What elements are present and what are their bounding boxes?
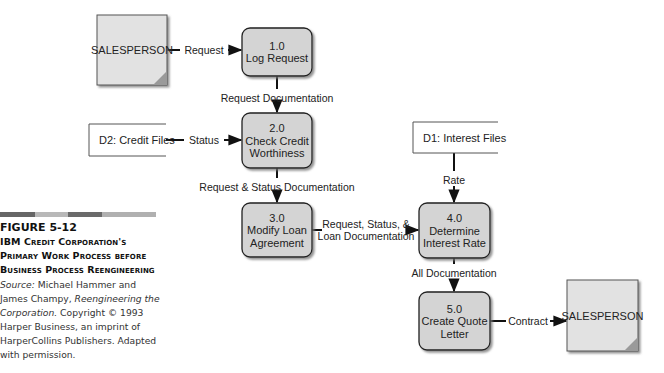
process-name: Log Request xyxy=(246,52,308,64)
entity-label: SALESPERSON xyxy=(562,310,644,322)
figure-title-line: Business Process Reengineering xyxy=(0,263,160,277)
process-number: 1.0 xyxy=(269,40,284,52)
process-name: Letter xyxy=(440,328,468,340)
data-store-d1: D1: Interest Files xyxy=(413,122,507,153)
process-number: 3.0 xyxy=(269,212,284,224)
process-number: 4.0 xyxy=(447,212,462,224)
data-store-label: D2: Credit Files xyxy=(99,134,175,146)
caption-bar-segment xyxy=(102,212,156,217)
figure-number: FIGURE 5-12 xyxy=(0,221,160,235)
caption-bar-segment xyxy=(0,212,35,217)
caption-bar-segment xyxy=(68,212,102,217)
process-number: 2.0 xyxy=(269,122,284,134)
caption-bar-segment xyxy=(35,212,68,217)
flow-label-request: Request xyxy=(184,44,223,56)
process-p4: 4.0DetermineInterest Rate xyxy=(419,203,490,258)
source-label: Source: xyxy=(0,279,35,290)
flow-label-req-status-loan: Request, Status, & xyxy=(322,218,410,230)
process-p3: 3.0Modify LoanAgreement xyxy=(242,203,312,257)
flow-label-contract: Contract xyxy=(508,315,548,327)
process-name: Modify Loan xyxy=(247,224,307,236)
process-name: Determine xyxy=(429,225,480,237)
process-name: Check Credit xyxy=(245,135,309,147)
entity-label: SALESPERSON xyxy=(91,44,173,56)
flow-label-req-status-loan: Loan Documentation xyxy=(318,230,415,242)
process-number: 5.0 xyxy=(447,303,462,315)
process-p5: 5.0Create QuoteLetter xyxy=(419,292,490,350)
process-p2: 2.0Check CreditWorthiness xyxy=(242,113,312,168)
process-name: Agreement xyxy=(250,237,304,249)
figure-caption: FIGURE 5-12 IBM Credit Corporation's Pri… xyxy=(0,212,160,362)
process-name: Create Quote xyxy=(421,315,487,327)
process-p1: 1.0Log Request xyxy=(242,28,312,76)
flow-label-status: Status xyxy=(189,134,219,146)
figure-title-line: Primary Work Process before xyxy=(0,249,160,263)
process-name: Interest Rate xyxy=(423,237,486,249)
flow-label-request-doc: Request Documentation xyxy=(221,92,334,104)
process-name: Worthiness xyxy=(250,147,305,159)
flow-label-rate: Rate xyxy=(443,174,465,186)
caption-color-bar xyxy=(0,212,160,217)
data-store-d2: D2: Credit Files xyxy=(89,124,175,156)
flow-label-req-status-doc: Request & Status Documentation xyxy=(199,181,354,193)
flow-label-all-doc: All Documentation xyxy=(411,267,496,279)
figure-source: Source: Michael Hammer and James Champy,… xyxy=(0,278,160,362)
figure-title-line: IBM Credit Corporation's xyxy=(0,235,160,249)
data-store-label: D1: Interest Files xyxy=(423,132,507,144)
